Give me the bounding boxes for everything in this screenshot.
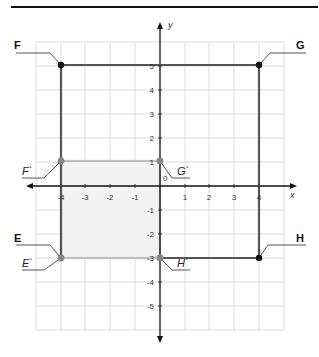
y-tick: -4	[147, 278, 155, 287]
label-G: G	[296, 39, 305, 51]
vertex-F-prime	[58, 158, 65, 165]
x-tick: -4	[57, 193, 65, 202]
y-axis-label: y	[167, 20, 173, 30]
vertex-G	[256, 62, 262, 68]
y-tick: -5	[147, 302, 155, 311]
y-tick: 3	[150, 110, 155, 119]
vertex-E-prime	[58, 255, 65, 262]
label-E-prime: E`	[22, 257, 33, 269]
y-tick: 5	[150, 62, 155, 71]
label-F: F	[14, 39, 21, 51]
y-tick: 4	[150, 86, 155, 95]
x-tick: -3	[81, 193, 89, 202]
x-tick: -1	[131, 193, 139, 202]
label-H: H	[296, 232, 304, 244]
x-tick: 4	[257, 193, 262, 202]
y-tick: 1	[150, 158, 155, 167]
label-H-prime: H`	[177, 257, 189, 269]
y-tick: 2	[150, 134, 155, 143]
origin-label: 0	[163, 174, 168, 183]
label-E: E	[14, 232, 21, 244]
vertex-H	[256, 255, 262, 261]
y-tick: -3	[147, 254, 155, 263]
x-tick: 1	[183, 193, 188, 202]
coordinate-plane-diagram: -4 -3 -2 -1 1 2 3 4 5 4 3 2 1 -1 -2 -3 -…	[0, 0, 319, 357]
vertex-G-prime	[157, 158, 164, 165]
vertex-F	[58, 62, 64, 68]
y-tick: -2	[147, 230, 155, 239]
image-rectangle	[61, 161, 160, 258]
label-G-prime: G`	[177, 165, 189, 177]
vertex-H-prime	[157, 255, 164, 262]
label-F-prime: F`	[22, 165, 32, 177]
x-axis-label: x	[289, 190, 295, 200]
y-tick: -1	[147, 206, 155, 215]
x-tick: 3	[232, 193, 237, 202]
x-tick: -2	[106, 193, 114, 202]
x-tick: 2	[207, 193, 212, 202]
